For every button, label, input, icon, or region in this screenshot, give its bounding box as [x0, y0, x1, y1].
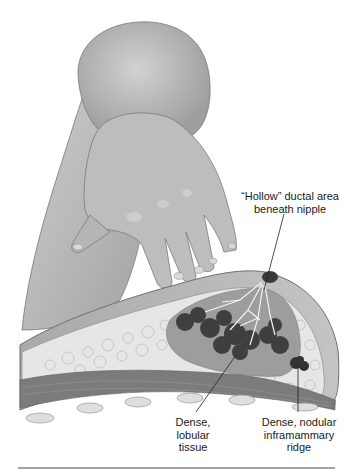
- label-ductal-line-1: “Hollow” ductal area: [238, 190, 342, 203]
- label-ductal-area: “Hollow” ductal area beneath nipple: [238, 190, 342, 215]
- bottom-rule-divider: [18, 467, 335, 469]
- label-lobular-line-2: lobular: [163, 429, 223, 442]
- breast-palpation-illustration: [0, 0, 354, 472]
- nipple: [262, 271, 278, 283]
- label-ridge-line-1: Dense, nodular: [256, 416, 342, 429]
- label-lobular-line-3: tissue: [163, 441, 223, 454]
- label-ridge-line-3: ridge: [256, 441, 342, 454]
- label-ridge-line-2: inframammary: [256, 429, 342, 442]
- label-ductal-line-2: beneath nipple: [238, 203, 342, 216]
- label-inframammary-ridge: Dense, nodular inframammary ridge: [256, 416, 342, 454]
- label-lobular-line-1: Dense,: [163, 416, 223, 429]
- label-lobular-tissue: Dense, lobular tissue: [163, 416, 223, 454]
